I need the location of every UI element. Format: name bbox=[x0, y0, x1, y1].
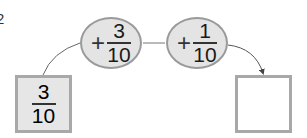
start-value-box: 3 10 bbox=[15, 75, 72, 133]
operation-1-denominator: 10 bbox=[107, 45, 130, 65]
operation-2-fraction: 1 10 bbox=[193, 21, 217, 65]
plus-sign: + bbox=[91, 31, 105, 55]
op2-to-result-arrow bbox=[228, 45, 263, 73]
operation-2-denominator: 10 bbox=[193, 45, 216, 65]
operation-circle-2: + 1 10 bbox=[166, 17, 228, 69]
plus-sign: + bbox=[177, 31, 191, 55]
operation-1-numerator: 3 bbox=[113, 21, 125, 41]
start-fraction: 3 10 bbox=[32, 82, 56, 126]
operation-circle-1: + 3 10 bbox=[80, 17, 142, 69]
operation-2-numerator: 1 bbox=[199, 21, 211, 41]
result-answer-box[interactable] bbox=[235, 75, 292, 133]
start-denominator: 10 bbox=[32, 106, 55, 126]
start-numerator: 3 bbox=[38, 82, 50, 102]
operation-1-fraction: 3 10 bbox=[107, 21, 131, 65]
start-to-op1-curve bbox=[43, 43, 80, 75]
